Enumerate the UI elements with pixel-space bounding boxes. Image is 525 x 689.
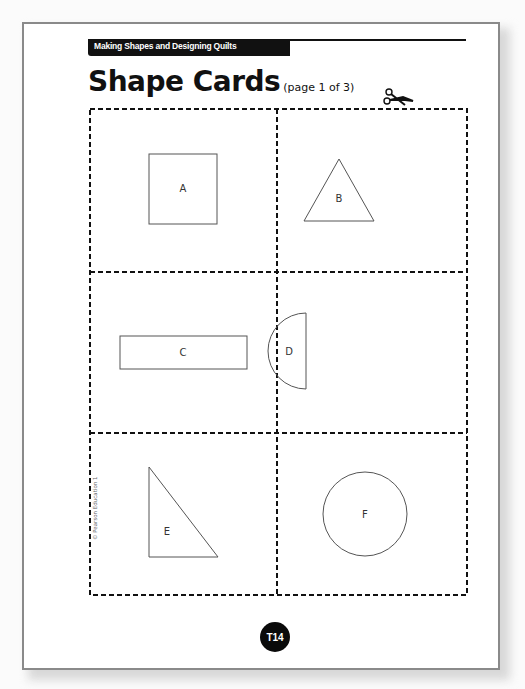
card-c[interactable]: C (120, 336, 247, 369)
card-f[interactable]: F (323, 472, 407, 556)
header-rule (290, 39, 466, 41)
card-d-label: D (285, 346, 293, 357)
card-c-label: C (180, 347, 187, 358)
scissors-icon (383, 88, 415, 110)
page-number: T14 (266, 632, 283, 643)
copyright-text: © Pearson Education 1 (92, 477, 98, 540)
card-e[interactable]: E (149, 467, 218, 557)
page-indicator: (page 1 of 3) (283, 81, 354, 94)
page-number-badge: T14 (260, 622, 290, 652)
card-b[interactable]: B (304, 159, 374, 221)
shape-card-grid: A B C D E F (89, 108, 469, 598)
page-title: Shape Cards(page 1 of 3) (88, 65, 354, 98)
card-a[interactable]: A (149, 154, 217, 224)
card-d[interactable]: D (268, 313, 306, 389)
card-a-label: A (180, 183, 187, 194)
card-f-label: F (362, 509, 368, 520)
card-b-label: B (336, 193, 343, 204)
card-e-label: E (164, 526, 170, 537)
series-header-bar: Making Shapes and Designing Quilts (88, 39, 290, 56)
series-label: Making Shapes and Designing Quilts (94, 41, 236, 51)
title-main: Shape Cards (88, 65, 280, 98)
